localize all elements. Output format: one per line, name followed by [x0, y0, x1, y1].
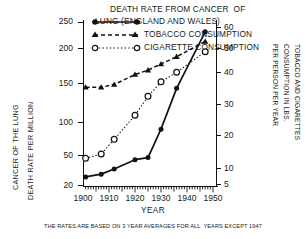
data-point — [145, 93, 151, 99]
data-point — [146, 155, 151, 160]
data-point — [159, 127, 164, 132]
left-tick-label-250: 250 — [47, 17, 73, 26]
x-tick-label-1950: 1950 — [198, 194, 228, 203]
data-point — [132, 112, 138, 118]
right-tick-label-50: 50 — [224, 44, 246, 53]
left-tick-label-200: 200 — [47, 44, 73, 53]
series-2 — [83, 49, 208, 161]
series-line — [86, 42, 206, 88]
data-point — [203, 29, 208, 34]
x-axis-title: YEAR — [0, 207, 306, 215]
right-axis-title-line1: TOBACCO AND CIGARETTES — [293, 44, 300, 140]
chart-title-line1: DEATH RATE FROM CANCER OF — [110, 5, 245, 13]
data-point — [202, 38, 208, 43]
right-tick-label-20: 20 — [224, 131, 246, 140]
right-tick-label-10: 10 — [224, 164, 246, 173]
right-tick-label-5: 5 — [224, 180, 246, 189]
right-tick-label-40: 40 — [224, 68, 246, 77]
right-axis-title-line2: CONSUMPTION IN LBS. — [282, 44, 289, 122]
data-point — [111, 136, 117, 142]
left-tick-label-150: 150 — [47, 79, 73, 88]
left-tick-label-50: 50 — [47, 151, 73, 160]
data-point — [112, 166, 117, 171]
left-tick-label-20: 20 — [47, 181, 73, 190]
data-point — [98, 151, 104, 157]
data-point — [83, 174, 88, 179]
left-tick-label-100: 100 — [47, 118, 73, 127]
data-series-layer — [83, 20, 219, 188]
chart-figure: CANCER OF THE LUNG DEATH RATE PER MILLIO… — [0, 0, 306, 239]
data-point — [174, 69, 180, 75]
right-tick-label-60: 60 — [224, 23, 246, 32]
data-point — [174, 86, 179, 91]
figure-caption: THE RATES ARE BASED ON 3 YEAR AVERAGES F… — [0, 224, 306, 230]
left-axis-title-line1: CANCER OF THE LUNG — [12, 104, 19, 190]
data-point — [202, 49, 208, 55]
data-point — [133, 157, 138, 162]
left-axis-title-line2: DEATH RATE PER MILLION — [27, 101, 34, 200]
data-point — [158, 79, 164, 85]
right-tick-label-30: 30 — [224, 100, 246, 109]
right-axis-title-line3: PER PERSON PER YEAR — [271, 44, 278, 126]
data-point — [99, 172, 104, 177]
data-point — [111, 81, 117, 86]
data-point — [83, 155, 89, 161]
